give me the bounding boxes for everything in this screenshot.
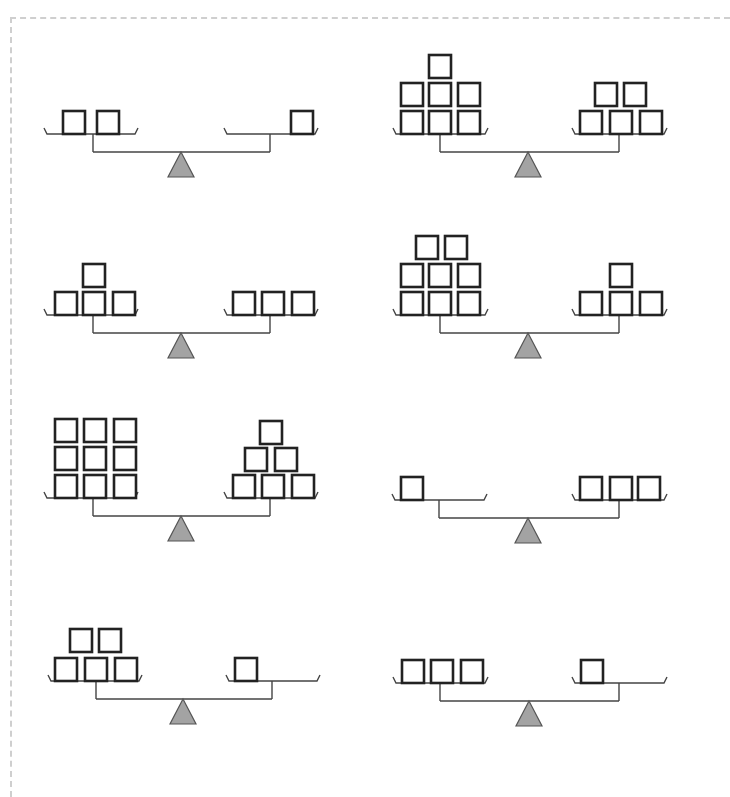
right-pan-1 — [224, 111, 318, 152]
fulcrum-triangle-icon — [515, 333, 541, 358]
weight-block — [431, 660, 453, 683]
weight-block — [97, 111, 119, 134]
weight-block — [624, 83, 646, 106]
balance-scale-1 — [44, 111, 318, 177]
weight-block — [85, 658, 107, 681]
fulcrum-triangle-icon — [515, 152, 541, 177]
right-pan-6 — [572, 477, 667, 518]
weight-block — [245, 448, 267, 471]
right-pan-4 — [572, 264, 667, 333]
weight-block — [580, 477, 602, 500]
weight-block — [63, 111, 85, 134]
weight-block — [401, 292, 423, 315]
left-pan-5 — [44, 419, 138, 516]
weight-block — [55, 475, 77, 498]
right-pan-8 — [572, 660, 667, 701]
weight-block — [458, 83, 480, 106]
weight-block — [458, 292, 480, 315]
weight-block — [458, 111, 480, 134]
weight-block — [233, 475, 255, 498]
weight-block — [429, 292, 451, 315]
weight-block — [580, 292, 602, 315]
weight-block — [55, 419, 77, 442]
weight-block — [402, 660, 424, 683]
weight-block — [640, 111, 662, 134]
balance-scale-8 — [393, 660, 667, 726]
fulcrum-triangle-icon — [168, 516, 194, 541]
balance-scale-7 — [48, 629, 320, 724]
left-pan-6 — [392, 477, 487, 518]
weight-block — [84, 419, 106, 442]
pan-tray — [44, 128, 138, 134]
left-pan-7 — [48, 629, 142, 699]
weight-block — [262, 475, 284, 498]
weight-block — [580, 111, 602, 134]
right-pan-7 — [226, 658, 320, 699]
weight-block — [610, 264, 632, 287]
weight-block — [581, 660, 603, 683]
weight-block — [458, 264, 480, 287]
weight-block — [445, 236, 467, 259]
weight-block — [113, 292, 135, 315]
weight-block — [461, 660, 483, 683]
fulcrum-triangle-icon — [168, 152, 194, 177]
weight-block — [55, 658, 77, 681]
weight-block — [401, 111, 423, 134]
balance-scale-2 — [393, 55, 667, 177]
weight-block — [638, 477, 660, 500]
weight-block — [235, 658, 257, 681]
weight-block — [429, 111, 451, 134]
weight-block — [262, 292, 284, 315]
weight-block — [83, 292, 105, 315]
balance-scale-5 — [44, 419, 318, 541]
weight-block — [233, 292, 255, 315]
left-pan-8 — [393, 660, 488, 701]
weight-block — [401, 477, 423, 500]
left-pan-2 — [393, 55, 488, 152]
fulcrum-triangle-icon — [515, 518, 541, 543]
weight-block — [114, 419, 136, 442]
weight-block — [429, 83, 451, 106]
weight-block — [55, 447, 77, 470]
weight-block — [291, 111, 313, 134]
balance-scale-4 — [393, 236, 667, 358]
weight-block — [429, 55, 451, 78]
balance-scale-6 — [392, 477, 667, 543]
weight-block — [610, 477, 632, 500]
weight-block — [610, 292, 632, 315]
weight-block — [115, 658, 137, 681]
left-pan-3 — [44, 264, 138, 333]
weight-block — [84, 475, 106, 498]
weight-block — [401, 264, 423, 287]
fulcrum-triangle-icon — [170, 699, 196, 724]
weight-block — [292, 475, 314, 498]
weight-block — [416, 236, 438, 259]
weight-block — [429, 264, 451, 287]
weight-block — [275, 448, 297, 471]
left-pan-4 — [393, 236, 488, 333]
right-pan-2 — [572, 83, 667, 152]
fulcrum-triangle-icon — [168, 333, 194, 358]
weight-block — [260, 421, 282, 444]
weight-block — [70, 629, 92, 652]
weight-block — [114, 475, 136, 498]
left-pan-1 — [44, 111, 138, 152]
weight-block — [595, 83, 617, 106]
right-pan-5 — [224, 421, 318, 516]
weight-block — [401, 83, 423, 106]
weight-block — [83, 264, 105, 287]
weight-block — [84, 447, 106, 470]
weight-block — [640, 292, 662, 315]
balance-scale-3 — [44, 264, 318, 358]
weight-block — [114, 447, 136, 470]
weight-block — [99, 629, 121, 652]
right-pan-3 — [224, 292, 318, 333]
fulcrum-triangle-icon — [516, 701, 542, 726]
weight-block — [610, 111, 632, 134]
weight-block — [55, 292, 77, 315]
weight-block — [292, 292, 314, 315]
